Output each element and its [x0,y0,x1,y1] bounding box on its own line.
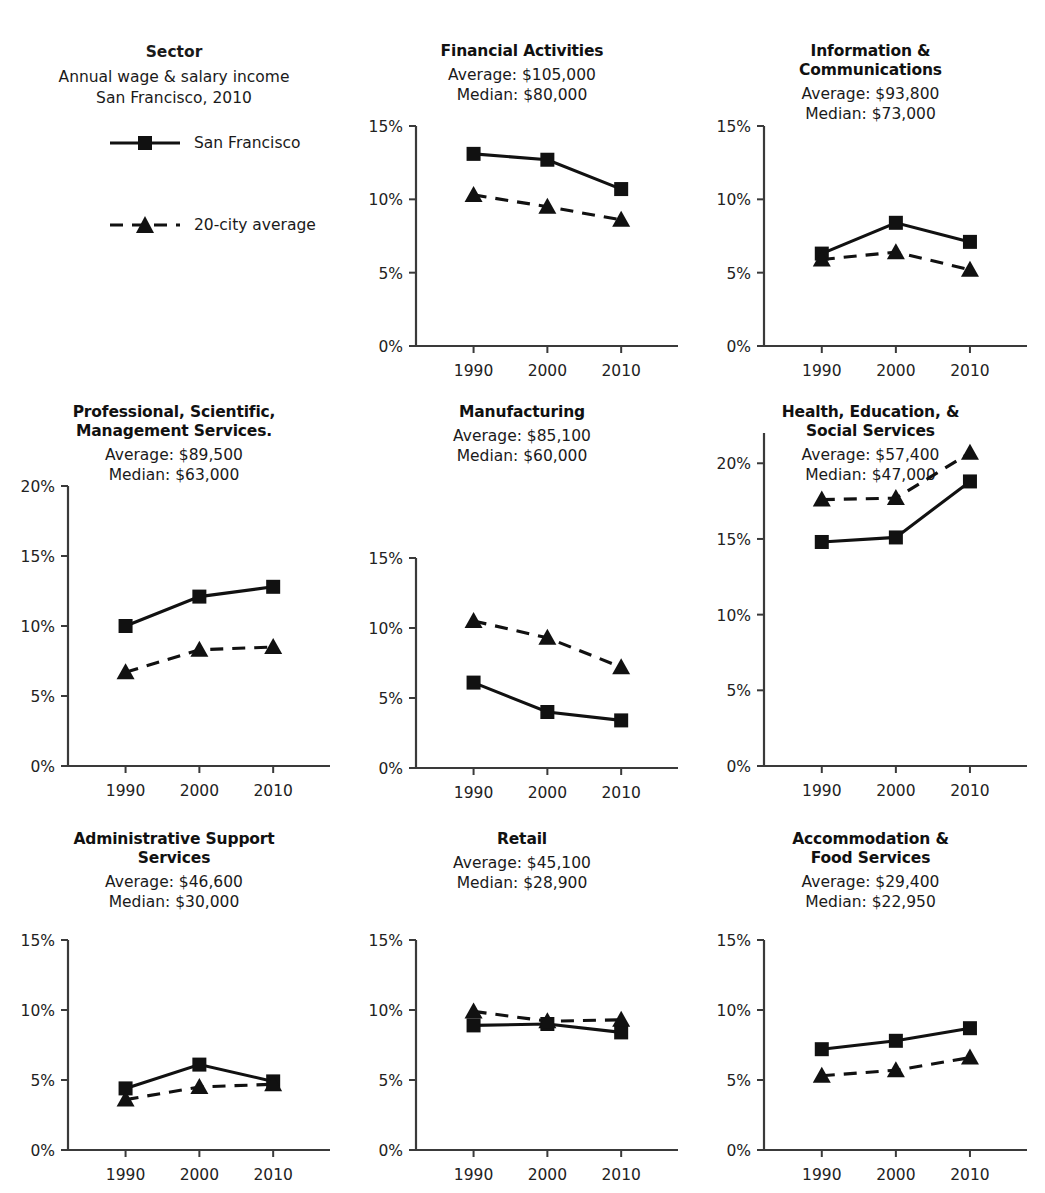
y-tick-label: 5% [30,1072,55,1090]
y-tick-label: 15% [21,548,55,566]
panel-header: Administrative Support Services Average:… [0,830,348,912]
panel-average: Average: $29,400 [714,872,1027,892]
plot-svg: 0%5%10%15%199020002010 [0,932,348,1192]
legend-item-20-city-average: 20-city average [108,208,316,242]
data-point-marker-triangle [887,243,905,259]
panel-financial-activities: Financial Activities Average: $105,000 M… [348,0,696,390]
data-point-marker-square [815,535,829,549]
x-tick-label: 2000 [876,362,915,380]
panel-manufacturing: Manufacturing Average: $85,100 Median: $… [348,390,696,820]
x-tick-label: 2010 [253,782,292,800]
panel-accommodation-food-services: Accommodation & Food Services Average: $… [696,820,1045,1193]
y-tick-label: 0% [726,338,751,356]
x-tick-label: 2000 [180,782,219,800]
data-point-marker-square [889,216,903,230]
panel-median: Median: $60,000 [366,446,678,466]
x-tick-label: 1990 [802,362,841,380]
panel-title-line1: Health, Education, & [714,403,1027,422]
data-point-marker-triangle [465,1002,483,1018]
data-point-marker-triangle [190,1078,208,1094]
y-tick-label: 0% [726,758,751,776]
plot-svg: 0%5%10%15%199020002010 [696,932,1045,1192]
panel-professional-scientific-management: Professional, Scientific, Management Ser… [0,390,348,820]
x-tick-label: 2010 [950,782,989,800]
panel-header: Retail Average: $45,100 Median: $28,900 [348,830,696,893]
data-point-marker-square [963,474,977,488]
y-tick-label: 15% [369,550,403,568]
plot-svg: 0%5%10%15%20%199020002010 [0,478,348,808]
panel-title-line2: Management Services. [18,422,330,441]
x-tick-label: 1990 [454,1166,493,1184]
y-tick-label: 0% [30,758,55,776]
x-tick-label: 2010 [601,784,640,802]
panel-title-line2: Food Services [714,849,1027,868]
legend-label-20-city-average: 20-city average [194,216,316,234]
plot-area: 0%5%10%15%199020002010 [348,118,696,388]
data-point-marker-square [192,590,206,604]
panel-title-line2: Services [18,849,330,868]
data-point-marker-square [192,1058,206,1072]
y-tick-label: 5% [726,265,751,283]
y-tick-label: 15% [717,932,751,950]
y-tick-label: 0% [30,1142,55,1160]
x-tick-label: 1990 [802,782,841,800]
x-tick-label: 2010 [601,362,640,380]
y-tick-label: 20% [21,478,55,496]
data-point-marker-square [963,1021,977,1035]
panel-average: Average: $85,100 [366,426,678,446]
y-tick-label: 5% [726,682,751,700]
y-tick-label: 15% [369,932,403,950]
data-point-marker-triangle [612,658,630,674]
x-tick-label: 1990 [106,782,145,800]
y-tick-label: 15% [717,531,751,549]
legend-header: Sector Annual wage & salary income San F… [0,42,348,109]
panel-administrative-support-services: Administrative Support Services Average:… [0,820,348,1193]
panel-information-communications: Information & Communications Average: $9… [696,0,1045,390]
y-tick-label: 5% [30,688,55,706]
panel-median: Median: $30,000 [18,892,330,912]
y-tick-label: 5% [726,1072,751,1090]
data-point-marker-triangle [190,641,208,657]
data-point-marker-triangle [961,444,979,460]
plot-svg: 0%5%10%15%199020002010 [348,118,696,388]
plot-svg: 0%5%10%15%199020002010 [348,932,696,1192]
panel-title-line1: Manufacturing [366,403,678,422]
data-point-marker-square [467,147,481,161]
legend-item-san-francisco: San Francisco [108,126,316,160]
plot-svg: 0%5%10%15%199020002010 [696,118,1045,388]
small-multiples-chart-grid: Sector Annual wage & salary income San F… [0,0,1045,1193]
panel-header: Professional, Scientific, Management Ser… [0,403,348,485]
data-point-marker-square [119,619,133,633]
plot-svg: 0%5%10%15%199020002010 [348,550,696,810]
data-point-marker-square [540,153,554,167]
y-tick-label: 10% [369,1002,403,1020]
panel-average: Average: $89,500 [18,445,330,465]
plot-area: 0%5%10%15%199020002010 [696,118,1045,388]
data-point-marker-square [815,1042,829,1056]
plot-area: 0%5%10%15%199020002010 [348,932,696,1192]
x-tick-label: 2000 [180,1166,219,1184]
plot-area: 0%5%10%15%199020002010 [348,550,696,810]
solid-square-line-key-icon [108,131,182,155]
panel-title-line1: Information & [714,42,1027,61]
panel-title-line1: Administrative Support [18,830,330,849]
y-tick-label: 10% [717,607,751,625]
legend-title: Sector [0,42,348,62]
x-tick-label: 1990 [106,1166,145,1184]
x-tick-label: 2010 [950,362,989,380]
panel-average: Average: $93,800 [714,84,1027,104]
panel-header: Financial Activities Average: $105,000 M… [348,42,696,105]
y-tick-label: 20% [717,455,751,473]
data-point-marker-square [266,580,280,594]
y-tick-label: 0% [378,1142,403,1160]
y-tick-label: 10% [21,618,55,636]
legend-subtitle-line2: San Francisco, 2010 [0,88,348,109]
panel-header: Manufacturing Average: $85,100 Median: $… [348,403,696,466]
data-point-marker-square [540,705,554,719]
x-tick-label: 2000 [876,782,915,800]
y-tick-label: 0% [378,338,403,356]
data-point-marker-square [614,1025,628,1039]
legend-subtitle-line1: Annual wage & salary income [0,67,348,88]
data-point-marker-square [963,235,977,249]
y-tick-label: 10% [717,191,751,209]
